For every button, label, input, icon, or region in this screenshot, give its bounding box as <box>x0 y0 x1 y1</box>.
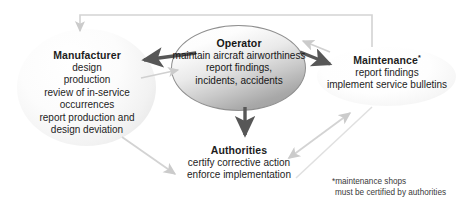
operator-line-1: maintain aircraft airworthiness <box>166 50 312 62</box>
manufacturer-line-3: review of in-service <box>8 87 166 99</box>
maintenance-line-1: report findings <box>320 67 454 79</box>
node-maintenance[interactable]: Maintenance* report findings implement s… <box>320 54 454 92</box>
operator-line-2: report findings, <box>166 62 312 74</box>
maintenance-line-2: implement service bulletins <box>320 79 454 91</box>
node-authorities[interactable]: Authorities certify corrective action en… <box>165 144 313 182</box>
footnote-line-1-text: maintenance shops <box>335 177 406 186</box>
operator-title: Operator <box>166 37 312 49</box>
maintenance-title-text: Maintenance <box>353 54 418 66</box>
footnote-line-1: *maintenance shops <box>332 176 458 187</box>
manufacturer-line-5: report production and <box>8 112 166 124</box>
maintenance-footnote-marker: * <box>418 54 421 61</box>
manufacturer-line-2: production <box>8 74 166 86</box>
authorities-title: Authorities <box>165 144 313 156</box>
diagram-canvas: Manufacturer design production review of… <box>0 0 461 221</box>
node-operator[interactable]: Operator maintain aircraft airworthiness… <box>166 37 312 87</box>
operator-line-3: incidents, accidents <box>166 75 312 87</box>
footnote-line-2: must be certified by authorities <box>332 187 458 198</box>
maintenance-title: Maintenance* <box>320 54 454 66</box>
manufacturer-line-1: design <box>8 62 166 74</box>
authorities-line-1: certify corrective action <box>165 157 313 169</box>
footnote: *maintenance shops must be certified by … <box>332 176 458 198</box>
authorities-line-2: enforce implementation <box>165 169 313 181</box>
manufacturer-line-4: occurrences <box>8 99 166 111</box>
node-manufacturer[interactable]: Manufacturer design production review of… <box>8 49 166 136</box>
manufacturer-title: Manufacturer <box>8 49 166 61</box>
manufacturer-line-6: design deviation <box>8 124 166 136</box>
